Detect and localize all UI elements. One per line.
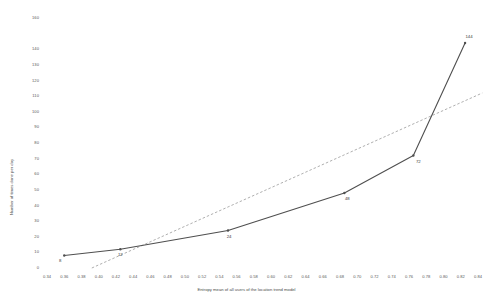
y-tick-label: 60 [17,172,39,176]
y-tick-label: 20 [17,235,39,239]
y-tick-label: 40 [17,203,39,207]
data-point-markers [63,42,466,257]
data-point-label: 8 [59,258,61,262]
data-point-marker [412,154,414,156]
data-point-label: 72 [416,159,421,163]
plot-area: 0102030405060708090100110120130140160 0.… [0,0,493,306]
data-point-label: 48 [345,197,350,201]
y-axis-title: Number of times done per day [10,139,14,235]
y-tick-label: 0 [17,266,39,270]
data-point-label: 12 [118,253,123,257]
y-tick-label: 160 [17,16,39,20]
data-point-marker [343,192,345,194]
y-tick-label: 10 [17,250,39,254]
data-point-marker [119,248,121,250]
y-tick-label: 80 [17,141,39,145]
y-tick-label: 140 [17,47,39,51]
y-tick-label: 110 [17,94,39,98]
y-tick-label: 120 [17,78,39,82]
chart-container: 0102030405060708090100110120130140160 0.… [0,0,493,306]
y-tick-label: 130 [17,63,39,67]
chart-canvas [0,0,493,306]
x-tick-label: 0.84 [468,275,488,279]
data-point-marker [464,42,466,44]
y-tick-label: 30 [17,219,39,223]
trendline-dashed [92,93,482,268]
y-tick-label: 90 [17,125,39,129]
y-tick-label: 50 [17,188,39,192]
data-series-line [64,43,465,256]
x-axis-title: Entropy mean of all users of the locatio… [0,288,493,292]
data-point-label: 144 [465,35,472,39]
data-point-marker [63,254,65,256]
y-tick-label: 70 [17,157,39,161]
data-point-marker [227,229,229,231]
data-point-label: 24 [227,234,232,238]
y-tick-label: 100 [17,110,39,114]
